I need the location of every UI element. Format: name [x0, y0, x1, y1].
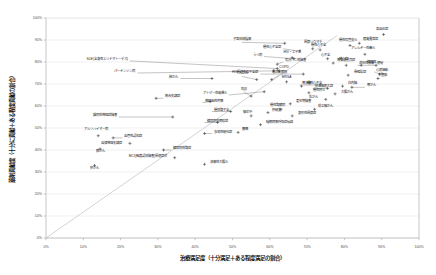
y-axis-title: 薬剤貢献度（十分に貢献＋ある程度貢献の割合）	[8, 73, 16, 184]
data-point-label: 腰痛	[242, 126, 249, 131]
data-point-label: 慢性腎臓病	[270, 102, 286, 107]
data-point-label: 慢性心不全症	[263, 44, 282, 49]
data-point-label: 過活動膀胱	[272, 69, 288, 74]
svg-text:40%: 40%	[35, 148, 43, 152]
svg-text:20%: 20%	[35, 192, 43, 196]
svg-text:0%: 0%	[43, 245, 49, 249]
svg-text:70%: 70%	[35, 82, 43, 86]
data-point-label: 慢性腎不全	[214, 107, 230, 112]
data-point-label: 白内障	[348, 80, 358, 85]
data-point-label: 胃食道逆流症	[337, 57, 356, 62]
data-point-label: 大腸がん	[341, 89, 354, 94]
data-point-label: MRSA	[282, 75, 292, 79]
data-point-label: 更年期障害	[296, 98, 312, 103]
data-point-label: 胃がん	[367, 82, 377, 87]
data-point-label: 気分バニ性障害	[285, 57, 307, 62]
data-point-label: HIV関連免疫不全症	[232, 69, 259, 74]
data-point-label: COPD	[279, 65, 289, 69]
data-point-label: 慢性気管支炎	[339, 37, 358, 42]
svg-text:80%: 80%	[35, 60, 43, 64]
data-point-label: 高血圧症	[376, 26, 389, 31]
data-point-label: 骨粗鬆症	[354, 69, 367, 74]
chart-background	[0, 0, 436, 275]
svg-text:80%: 80%	[341, 245, 349, 249]
svg-text:10%: 10%	[35, 214, 43, 218]
svg-text:10%: 10%	[80, 245, 88, 249]
data-point-label: アトピー性皮膚炎	[203, 90, 228, 95]
data-point-label: 躁病性神経症障害	[93, 112, 118, 117]
data-point-label: 統合失調症	[165, 93, 181, 98]
data-point-label: 胃潰瘍	[302, 80, 312, 85]
data-point-label: 潰瘍性大腸炎	[210, 159, 229, 164]
data-point-label: アルツハイマー病	[84, 126, 109, 131]
svg-text:100%: 100%	[414, 245, 424, 249]
data-point-label: 自律神経失調症	[101, 140, 123, 145]
data-point-label: 膵がん	[96, 148, 106, 153]
data-point-label: 糖尿病性腎症	[173, 145, 192, 150]
data-point-label: 変形性関節症	[298, 110, 317, 115]
data-point-label: 喘息	[241, 86, 248, 91]
data-point-label: 糖尿病性網膜症	[207, 118, 229, 123]
svg-text:20%: 20%	[117, 245, 125, 249]
svg-text:30%: 30%	[35, 170, 43, 174]
data-point-label: MCI(軽度認知障害)関連症状	[129, 153, 168, 158]
svg-text:70%: 70%	[303, 245, 311, 249]
data-point-label: 不整脈	[378, 72, 388, 77]
svg-text:60%: 60%	[266, 245, 274, 249]
data-point-label: 子宮体部腫瘍	[233, 36, 252, 41]
data-point-label: 心房細動	[376, 67, 389, 72]
data-point-label: 血管性認知症	[124, 133, 143, 138]
svg-text:90%: 90%	[378, 245, 386, 249]
data-point-label: 心不全	[321, 52, 331, 57]
data-point-label: 神経因性疼痛	[205, 98, 224, 103]
data-point-label: 肺がん	[169, 74, 179, 79]
svg-text:90%: 90%	[35, 38, 43, 42]
svg-text:0%: 0%	[37, 236, 43, 240]
data-point-label: 脂質異常症	[363, 36, 379, 41]
scatter-chart-container: 0%10%20%30%40%50%60%70%80%90%100% 0%10%2…	[0, 0, 436, 275]
svg-text:50%: 50%	[35, 126, 43, 130]
svg-text:40%: 40%	[192, 245, 200, 249]
data-point-label: SLE(全身性エリテマトーデス)	[86, 56, 127, 61]
data-point-label: 脳卒中	[243, 109, 252, 114]
data-point-label: アレルギー性鼻炎	[351, 45, 376, 50]
data-point-label: パーキンソン病	[114, 68, 136, 73]
x-axis-title: 治療満足度（十分満足＋ある程度満足の割合）	[180, 254, 285, 262]
data-point-label: 肝がん	[90, 165, 100, 170]
data-point-label: 前立腺肥大症	[315, 83, 334, 88]
scatter-chart: 0%10%20%30%40%50%60%70%80%90%100% 0%10%2…	[0, 0, 436, 275]
data-point-label: 睡眠時無呼吸症候群	[266, 119, 294, 124]
data-point-label: うつ病	[253, 52, 263, 57]
data-point-label: HIV・エイズ	[283, 49, 301, 54]
data-point-label: 消化性潰瘍・便秘	[359, 60, 384, 65]
data-point-label: 前立腺がん	[318, 103, 334, 108]
data-point-label: 多発性硬化症	[214, 129, 233, 134]
svg-text:100%: 100%	[33, 16, 43, 20]
data-point-label: 肝硬変	[272, 107, 282, 112]
svg-text:60%: 60%	[35, 104, 43, 108]
data-point-label: 慢性心不全	[311, 42, 327, 47]
svg-text:50%: 50%	[229, 245, 237, 249]
svg-text:30%: 30%	[154, 245, 162, 249]
